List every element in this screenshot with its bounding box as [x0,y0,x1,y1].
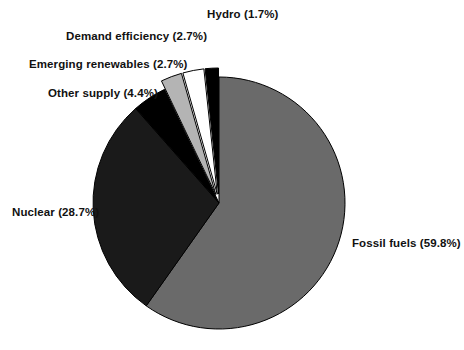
pie-label-nuclear: Nuclear (28.7%) [12,206,99,219]
pie-label-other-supply: Other supply (4.4%) [48,87,158,100]
pie-label-hydro: Hydro (1.7%) [207,8,279,21]
pie-chart-figure: Hydro (1.7%) Demand efficiency (2.7%) Em… [0,0,464,350]
pie-chart-canvas [0,0,464,350]
pie-slice-group [93,68,345,329]
pie-label-demand-efficiency: Demand efficiency (2.7%) [66,30,207,43]
pie-label-emerging-renewables: Emerging renewables (2.7%) [29,58,188,71]
pie-label-fossil-fuels: Fossil fuels (59.8%) [352,237,461,250]
